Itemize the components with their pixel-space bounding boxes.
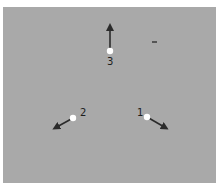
speck-mark <box>152 41 157 43</box>
point-2-dot <box>70 115 76 121</box>
point-1-label: 1 <box>137 108 143 118</box>
vector-3 <box>107 26 113 54</box>
vector-2 <box>55 115 76 128</box>
point-3-label: 3 <box>107 57 113 67</box>
vector-1 <box>144 114 166 128</box>
point-2-label: 2 <box>80 108 86 118</box>
point-3-dot <box>107 48 113 54</box>
point-1-dot <box>144 114 150 120</box>
diagram-canvas <box>0 0 220 189</box>
